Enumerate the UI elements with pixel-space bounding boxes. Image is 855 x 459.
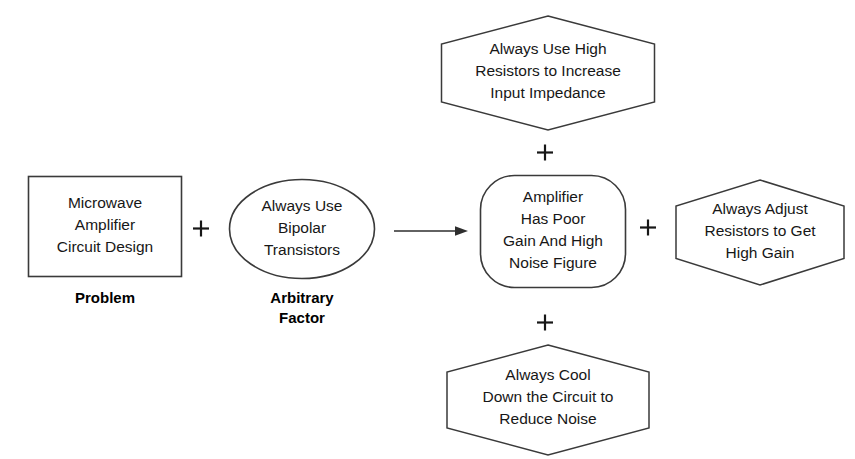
plus-problem-factor-glyph — [193, 221, 209, 237]
arbitrary-factor-node[interactable] — [229, 179, 375, 279]
top-hexagon-node[interactable] — [441, 16, 655, 131]
problem-node[interactable] — [28, 176, 182, 277]
result-node[interactable] — [480, 175, 626, 288]
arrow-factor-to-result-shape — [394, 226, 468, 236]
plus-bottom-glyph — [537, 315, 553, 331]
bottom-hexagon-node[interactable] — [447, 345, 650, 456]
plus-right-glyph — [640, 220, 656, 236]
problem-caption: Problem — [28, 288, 182, 308]
right-hexagon-node[interactable] — [676, 180, 845, 286]
arbitrary-factor-caption: Arbitrary Factor — [230, 288, 374, 327]
plus-top-glyph — [537, 145, 553, 161]
